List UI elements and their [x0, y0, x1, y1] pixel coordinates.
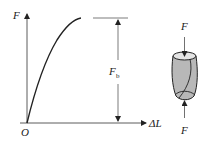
fb-label: F [108, 65, 116, 77]
bottom-force-label: F [180, 124, 188, 136]
force-elongation-curve [27, 18, 81, 123]
specimen-body [172, 56, 197, 100]
origin-label: O [21, 126, 29, 138]
fb-subscript: b [116, 72, 120, 80]
axes [20, 14, 146, 123]
x-axis-label: ΔL [148, 117, 162, 129]
specimen [172, 37, 197, 118]
y-axis-label: F [12, 9, 20, 21]
top-force-label: F [180, 20, 188, 32]
diagram-canvas: F O ΔL F b F F [0, 0, 212, 146]
